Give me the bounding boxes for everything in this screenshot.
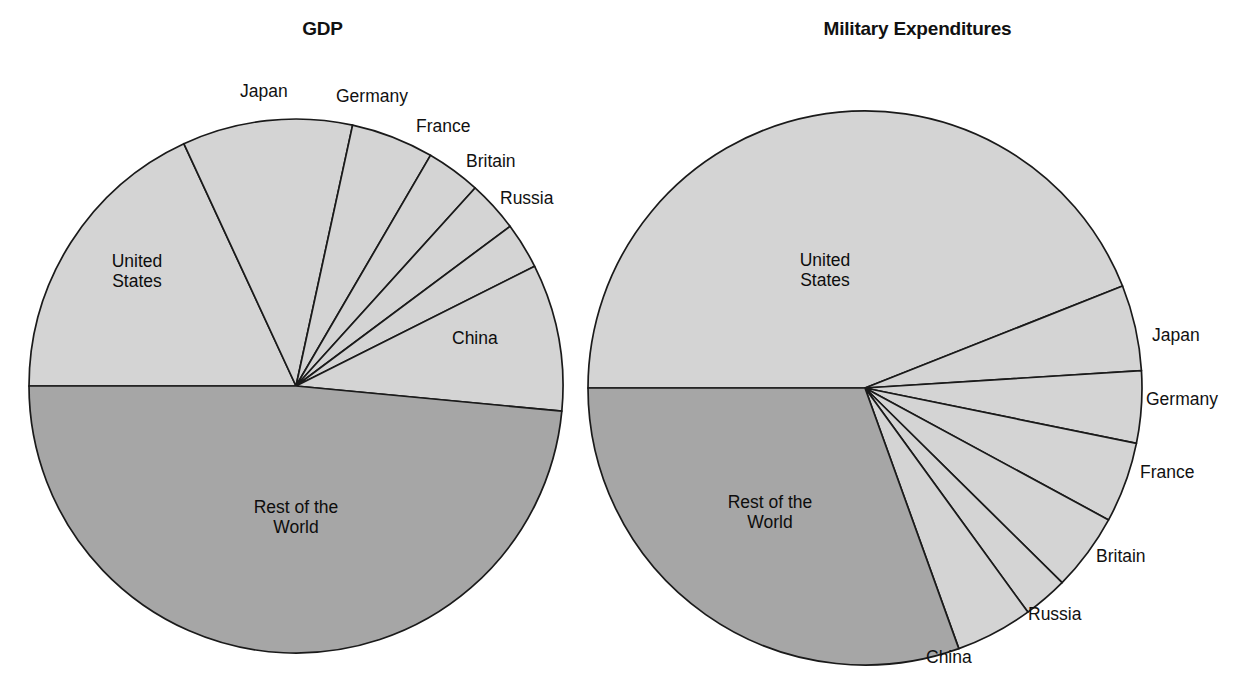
label-military-china: China (926, 647, 972, 667)
label-military-united-states: United States (770, 250, 880, 291)
label-military-britain: Britain (1096, 546, 1146, 566)
label-military-russia: Russia (1028, 604, 1082, 624)
label-military-germany: Germany (1146, 389, 1218, 409)
label-military-france: France (1140, 462, 1194, 482)
pie-military (0, 0, 1242, 685)
pie-chart-figure: GDP United States Japan Germany France B… (0, 0, 1242, 685)
label-military-rest-of-the-world: Rest of the World (690, 492, 850, 533)
label-military-japan: Japan (1152, 325, 1200, 345)
